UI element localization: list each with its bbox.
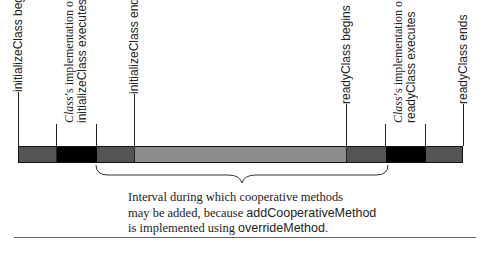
tick-ready-ends: [463, 104, 464, 146]
segment-class-ready-impl: [386, 147, 426, 162]
label-class-init-impl: Class’s implementation of initializeClas…: [63, 3, 89, 123]
label-init-ends: initializeClass ends: [128, 2, 141, 94]
tick-init-ends: [134, 94, 135, 146]
tick-class-ready-start: [385, 124, 386, 146]
segment-cooperative-interval: [135, 147, 347, 162]
note-line-1: Interval during which cooperative method…: [128, 190, 376, 206]
label-init-begins: initializeClass begins: [12, 2, 25, 92]
segment-ready-phase-end: [426, 147, 462, 162]
label-class-ready-impl: Class’s implementation of readyClass exe…: [392, 3, 418, 123]
label-ready-ends: readyClass ends: [457, 2, 470, 104]
tick-ready-begins: [346, 104, 347, 146]
curly-brace-icon: [94, 163, 390, 187]
segment-ready-phase-start: [347, 147, 386, 162]
tick-class-init-start: [56, 124, 57, 146]
tick-init-begins: [18, 92, 19, 146]
tick-class-init-end: [96, 124, 97, 146]
note-line-3: is implemented using overrideMethod.: [128, 221, 376, 237]
interval-note: Interval during which cooperative method…: [128, 190, 376, 237]
segment-initialize-phase-end: [97, 147, 135, 162]
timeline-diagram: initializeClass begins Class’s implement…: [0, 0, 486, 253]
label-ready-begins: readyClass begins: [340, 2, 353, 104]
tick-class-ready-end: [425, 124, 426, 146]
segment-class-initialize-impl: [57, 147, 97, 162]
timeline-bar: [18, 146, 463, 163]
segment-initialize-phase-start: [19, 147, 57, 162]
bottom-rule: [14, 237, 476, 238]
note-line-2: may be added, because addCooperativeMeth…: [128, 206, 376, 222]
